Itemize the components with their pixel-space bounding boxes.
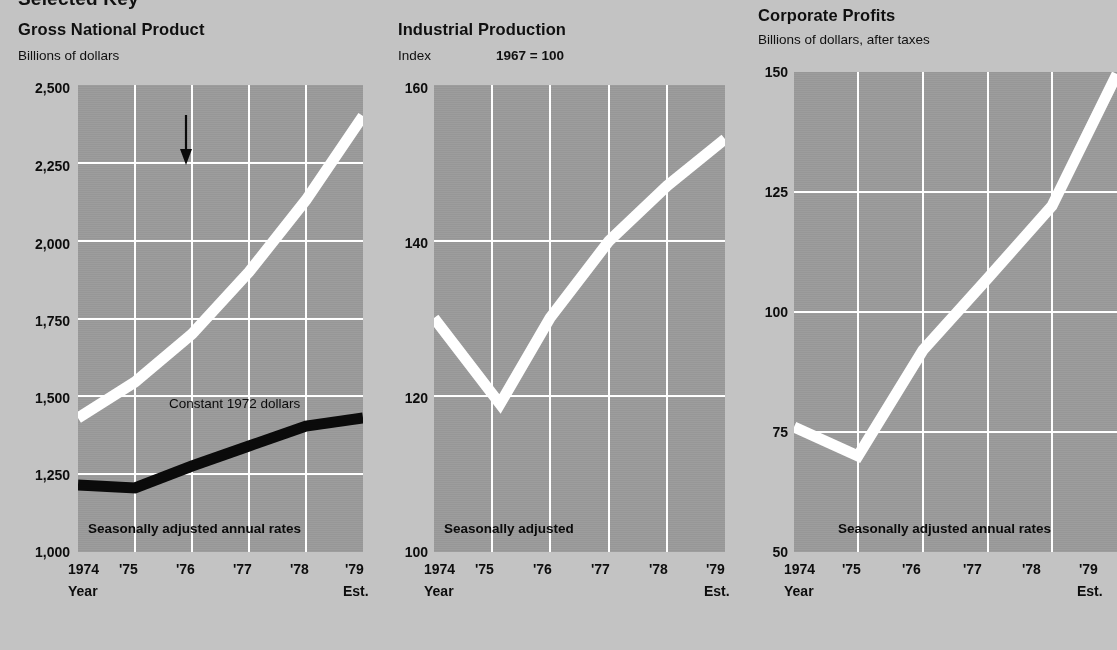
y-axis-labels-3: 150 125 100 75 50: [750, 0, 788, 650]
x-tick-2-2: '76: [533, 561, 552, 577]
y-tick-1-4: 1,500: [35, 390, 70, 406]
panel-gross-national-product: Gross National Product Billions of dolla…: [0, 0, 400, 650]
x-tick-1-0: 1974: [68, 561, 99, 577]
y-tick-3-1: 125: [765, 184, 788, 200]
x-tick-3-5: '79: [1079, 561, 1098, 577]
plot-area-2: [434, 85, 725, 552]
y-axis-labels-2: 160 140 120 100: [390, 0, 428, 650]
x-tick-3-3: '77: [963, 561, 982, 577]
panel-corporate-profits: Corporate Profits Billions of dollars, a…: [750, 0, 1100, 650]
plot-area-3: [794, 72, 1117, 552]
panel-industrial-production: Industrial Production Index 1967 = 100 1…: [390, 0, 750, 650]
plot-svg-1: [78, 85, 363, 552]
y-tick-1-6: 1,000: [35, 544, 70, 560]
x-tick-2-4: '78: [649, 561, 668, 577]
chart-index-base-2: 1967 = 100: [496, 48, 564, 63]
y-tick-1-0: 2,500: [35, 80, 70, 96]
series-line-corporate-profits: [794, 74, 1117, 456]
y-tick-2-3: 100: [405, 544, 428, 560]
note-label-2: Seasonally adjusted: [444, 521, 574, 536]
y-tick-3-4: 50: [772, 544, 788, 560]
x-axis-estimate-note-3: Est.: [1077, 583, 1103, 599]
x-axis-estimate-note-2: Est.: [704, 583, 730, 599]
series-line-industrial-production: [434, 139, 725, 404]
series-line-constant-1972-dollars: [78, 418, 363, 488]
y-tick-1-5: 1,250: [35, 467, 70, 483]
note-label-3: Seasonally adjusted annual rates: [838, 521, 1051, 536]
x-tick-1-1: '75: [119, 561, 138, 577]
annotation-label-1: Constant 1972 dollars: [169, 396, 300, 411]
y-tick-1-3: 1,750: [35, 313, 70, 329]
x-tick-1-2: '76: [176, 561, 195, 577]
x-axis-estimate-note-1: Est.: [343, 583, 369, 599]
y-tick-1-2: 2,000: [35, 236, 70, 252]
y-tick-3-3: 75: [772, 424, 788, 440]
plot-area-1: [78, 85, 363, 552]
gridlines-vertical-2: [492, 85, 667, 552]
y-tick-3-2: 100: [765, 304, 788, 320]
x-tick-1-3: '77: [233, 561, 252, 577]
x-tick-2-5: '79: [706, 561, 725, 577]
plot-svg-3: [794, 72, 1117, 552]
y-tick-2-2: 120: [405, 390, 428, 406]
plot-svg-2: [434, 85, 725, 552]
note-label-1: Seasonally adjusted annual rates: [88, 521, 301, 536]
y-tick-2-0: 160: [405, 80, 428, 96]
x-tick-3-1: '75: [842, 561, 861, 577]
y-axis-labels-1: 2,500 2,250 2,000 1,750 1,500 1,250 1,00…: [0, 0, 70, 650]
x-axis-name-1: Year: [68, 583, 98, 599]
y-tick-1-1: 2,250: [35, 158, 70, 174]
x-tick-2-1: '75: [475, 561, 494, 577]
x-tick-1-5: '79: [345, 561, 364, 577]
x-tick-2-0: 1974: [424, 561, 455, 577]
annotation-arrow-1: [180, 115, 192, 165]
x-tick-1-4: '78: [290, 561, 309, 577]
x-tick-3-4: '78: [1022, 561, 1041, 577]
y-tick-3-0: 150: [765, 64, 788, 80]
x-axis-name-2: Year: [424, 583, 454, 599]
x-tick-3-0: 1974: [784, 561, 815, 577]
y-tick-2-1: 140: [405, 235, 428, 251]
x-tick-2-3: '77: [591, 561, 610, 577]
x-axis-name-3: Year: [784, 583, 814, 599]
x-tick-3-2: '76: [902, 561, 921, 577]
series-line-current-dollars: [78, 116, 363, 418]
